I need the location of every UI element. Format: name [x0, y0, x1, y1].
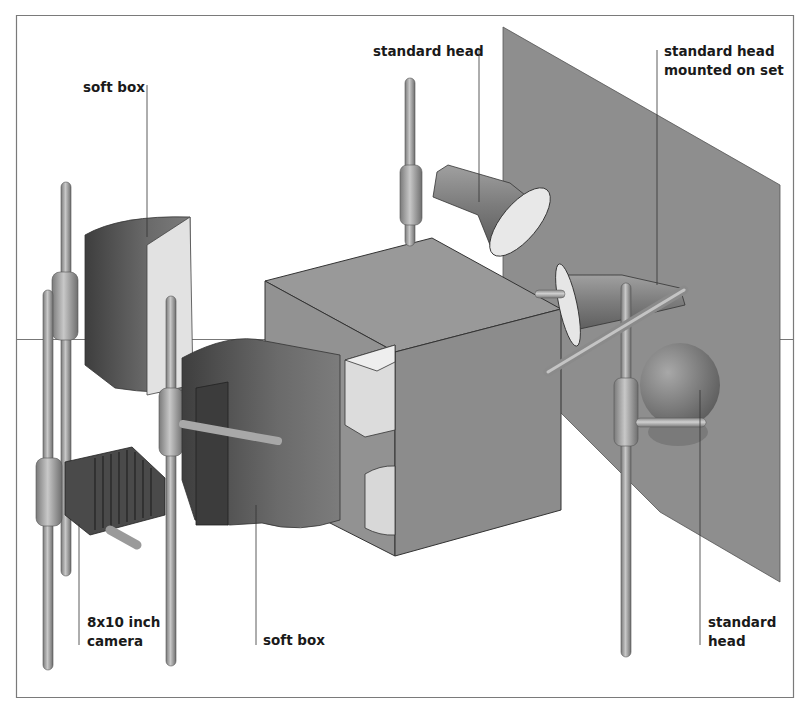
stand-clamp: [36, 458, 62, 526]
camera-rail: [110, 530, 137, 545]
head-arm: [636, 418, 706, 427]
label-standard-head-bottom: standard head: [708, 613, 776, 651]
label-soft-box-bottom: soft box: [263, 631, 325, 650]
box-right-face: [395, 309, 561, 556]
label-camera: 8x10 inch camera: [87, 613, 160, 651]
stand-clamp: [52, 272, 78, 340]
inner-cylinder: [365, 466, 395, 535]
label-soft-box-top: soft box: [83, 78, 145, 97]
camera-bellows: [65, 447, 165, 535]
mount-arm: [535, 290, 565, 298]
label-standard-head-mounted: standard head mounted on set: [664, 42, 784, 80]
standard-head-round: [640, 343, 720, 427]
stand-clamp: [159, 388, 183, 456]
label-standard-head-top: standard head: [373, 42, 484, 61]
lighting-diagram: [0, 0, 810, 716]
stand-rod: [621, 283, 631, 657]
stand-clamp: [400, 165, 422, 225]
stand-rod: [166, 296, 176, 666]
stand-clamp: [614, 378, 638, 446]
